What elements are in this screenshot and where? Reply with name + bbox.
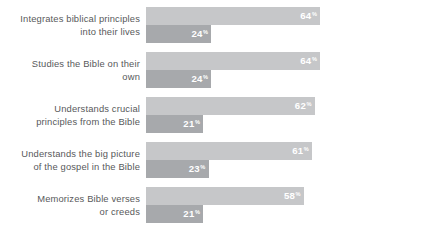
bar-value-number: 64: [300, 56, 311, 66]
bar-value-number: 24: [192, 74, 203, 84]
bar-value-label: 61%: [292, 146, 309, 156]
percent-sign: %: [306, 102, 311, 108]
percent-sign: %: [304, 147, 309, 153]
chart-row-group: Studies the Bible on their own64%24%: [0, 52, 431, 89]
chart-row-group: Understands crucial principles from the …: [0, 97, 431, 134]
bar-value-label: 64%: [300, 11, 317, 21]
percent-sign: %: [203, 75, 208, 81]
percent-sign: %: [203, 30, 208, 36]
bar-value-label: 21%: [183, 209, 200, 219]
bar-series-a: 64%: [146, 52, 320, 70]
bar-value-label: 62%: [295, 101, 312, 111]
percent-sign: %: [312, 12, 317, 18]
percent-sign: %: [195, 210, 200, 216]
bar-value-number: 61: [292, 146, 303, 156]
bar-value-number: 64: [300, 11, 311, 21]
category-label: Integrates biblical principles into thei…: [0, 7, 146, 44]
chart-row-group: Memorizes Bible verses or creeds58%21%: [0, 187, 431, 224]
bar-value-number: 24: [192, 29, 203, 39]
bar-value-label: 24%: [192, 74, 209, 84]
bar-value-number: 21: [183, 209, 194, 219]
percent-sign: %: [312, 57, 317, 63]
bar-value-label: 24%: [192, 29, 209, 39]
chart-row-group: Integrates biblical principles into thei…: [0, 7, 431, 44]
bar-value-number: 58: [284, 191, 295, 201]
category-label: Memorizes Bible verses or creeds: [0, 187, 146, 224]
bars-area: 61%23%: [146, 142, 431, 179]
category-label: Understands the big picture of the gospe…: [0, 142, 146, 179]
bar-value-label: 23%: [189, 164, 206, 174]
bar-value-label: 64%: [300, 56, 317, 66]
bar-series-b: 24%: [146, 25, 211, 43]
bar-value-label: 58%: [284, 191, 301, 201]
bar-series-a: 58%: [146, 187, 304, 205]
percent-sign: %: [296, 192, 301, 198]
bar-series-b: 21%: [146, 115, 203, 133]
bar-series-b: 23%: [146, 160, 209, 178]
category-label: Understands crucial principles from the …: [0, 97, 146, 134]
percent-sign: %: [195, 120, 200, 126]
bar-value-number: 21: [183, 119, 194, 129]
bars-area: 62%21%: [146, 97, 431, 134]
bar-series-a: 61%: [146, 142, 312, 160]
chart-rows: Integrates biblical principles into thei…: [0, 0, 431, 245]
bar-series-a: 64%: [146, 7, 320, 25]
bar-series-b: 24%: [146, 70, 211, 88]
bars-area: 64%24%: [146, 7, 431, 44]
bar-chart: Integrates biblical principles into thei…: [0, 0, 431, 245]
bar-value-number: 62: [295, 101, 306, 111]
chart-row-group: Understands the big picture of the gospe…: [0, 142, 431, 179]
category-label: Studies the Bible on their own: [0, 52, 146, 89]
bar-value-number: 23: [189, 164, 200, 174]
bar-series-b: 21%: [146, 205, 203, 223]
bars-area: 64%24%: [146, 52, 431, 89]
bar-value-label: 21%: [183, 119, 200, 129]
percent-sign: %: [200, 165, 205, 171]
bars-area: 58%21%: [146, 187, 431, 224]
bar-series-a: 62%: [146, 97, 315, 115]
